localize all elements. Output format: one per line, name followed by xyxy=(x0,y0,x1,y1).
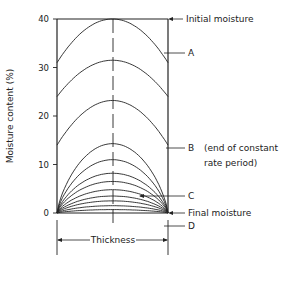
final-arrow-icon xyxy=(168,211,173,215)
x-axis-label: Thickness xyxy=(90,235,136,245)
moisture-profile-curve xyxy=(57,173,168,213)
label-b: B xyxy=(188,143,194,153)
moisture-profile-curve xyxy=(57,210,168,213)
y-ticks: 403020100 xyxy=(38,14,57,218)
b-note-line2: rate period) xyxy=(204,158,257,168)
final-moisture-label: Final moisture xyxy=(188,208,252,218)
y-tick-label: 30 xyxy=(38,63,49,73)
moisture-profiles xyxy=(57,19,168,213)
y-axis-label: Moisture content (%) xyxy=(5,69,15,164)
thickness-arrow-right-icon xyxy=(163,238,168,242)
b-note-line1: (end of constant xyxy=(204,143,278,153)
label-c: C xyxy=(188,191,194,201)
y-tick-label: 20 xyxy=(38,111,49,121)
y-tick-label: 0 xyxy=(44,208,49,218)
y-tick-label: 10 xyxy=(38,160,49,170)
label-a: A xyxy=(188,48,195,58)
moisture-profile-curve xyxy=(57,160,168,213)
initial-moisture-label: Initial moisture xyxy=(186,14,254,24)
moisture-profile-curve xyxy=(57,101,168,146)
label-d: D xyxy=(188,221,195,231)
moisture-diagram: 403020100 Moisture content (%) Initial m… xyxy=(0,0,295,292)
moisture-profile-curve xyxy=(57,19,168,63)
initial-arrow-icon xyxy=(168,17,173,21)
thickness-arrow-left-icon xyxy=(57,238,62,242)
moisture-profile-curve xyxy=(57,60,168,96)
y-tick-label: 40 xyxy=(38,14,49,24)
